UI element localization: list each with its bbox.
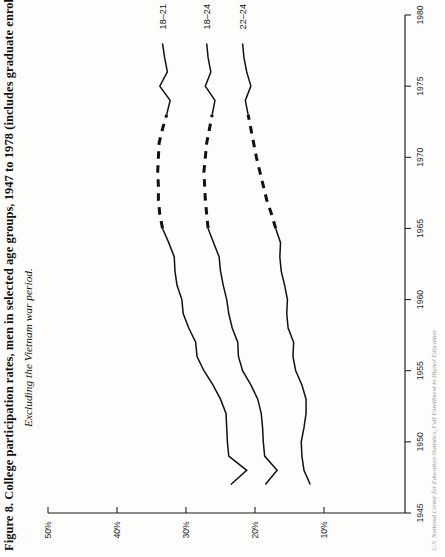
series-line-post-18-24 — [205, 43, 215, 114]
year-tick-label: 1970 — [415, 148, 425, 167]
year-tick-label: 1965 — [415, 219, 425, 238]
series-line-post-18-21 — [160, 43, 170, 114]
chart-plot-area: 18–2118–2422–24 194519501955196019651970… — [0, 0, 445, 557]
year-tick-label: 1955 — [415, 361, 425, 380]
series-label-22-24: 22–24 — [238, 4, 248, 30]
chart-tick-labels: 1945195019551960196519701975198010%20%30… — [43, 5, 425, 538]
percent-tick-label: 50% — [43, 521, 53, 539]
percent-tick-label: 20% — [250, 521, 260, 539]
series-dashed-18-21 — [158, 115, 167, 229]
series-line-post-22-24 — [243, 43, 251, 114]
year-tick-label: 1980 — [415, 5, 425, 24]
year-tick-label: 1945 — [415, 503, 425, 522]
percent-tick-label: 10% — [319, 521, 329, 539]
line-chart: 18–2118–2422–24 194519501955196019651970… — [0, 0, 445, 557]
percent-tick-label: 30% — [181, 521, 191, 539]
year-tick-label: 1960 — [415, 290, 425, 309]
year-tick-label: 1950 — [415, 432, 425, 451]
year-tick-label: 1975 — [415, 76, 425, 95]
series-line-18-24 — [208, 228, 277, 484]
series-dashed-18-24 — [204, 115, 212, 229]
series-dashed-22-24 — [248, 115, 276, 229]
series-label-18-24: 18–24 — [202, 4, 212, 30]
chart-axes — [48, 15, 411, 513]
series-line-22-24 — [276, 228, 311, 484]
chart-series-group: 18–2118–2422–24 — [158, 4, 311, 485]
series-label-18-21: 18–21 — [158, 4, 168, 30]
percent-tick-label: 40% — [112, 521, 122, 539]
series-line-18-21 — [163, 228, 247, 484]
